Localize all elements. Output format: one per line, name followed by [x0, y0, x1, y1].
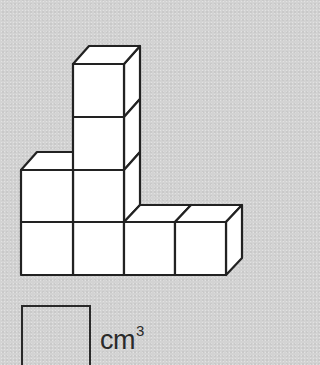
- unit-text: cm: [100, 325, 135, 355]
- unit-label: cm3: [100, 327, 144, 354]
- cube-front-c4-r1: [175, 222, 226, 275]
- cube-front-c2-r3: [73, 117, 124, 170]
- cube-structure-figure: [0, 0, 261, 357]
- cube-front-c2-r1: [73, 222, 124, 275]
- front-faces: [21, 64, 226, 275]
- cube-front-c2-r2: [73, 170, 124, 222]
- answer-input-box[interactable]: [21, 305, 91, 365]
- cube-front-c2-r4: [73, 64, 124, 117]
- cube-front-c1-r2: [21, 170, 73, 222]
- unit-exponent: 3: [136, 322, 144, 339]
- cube-front-c3-r1: [124, 222, 175, 275]
- cube-front-c1-r1: [21, 222, 73, 275]
